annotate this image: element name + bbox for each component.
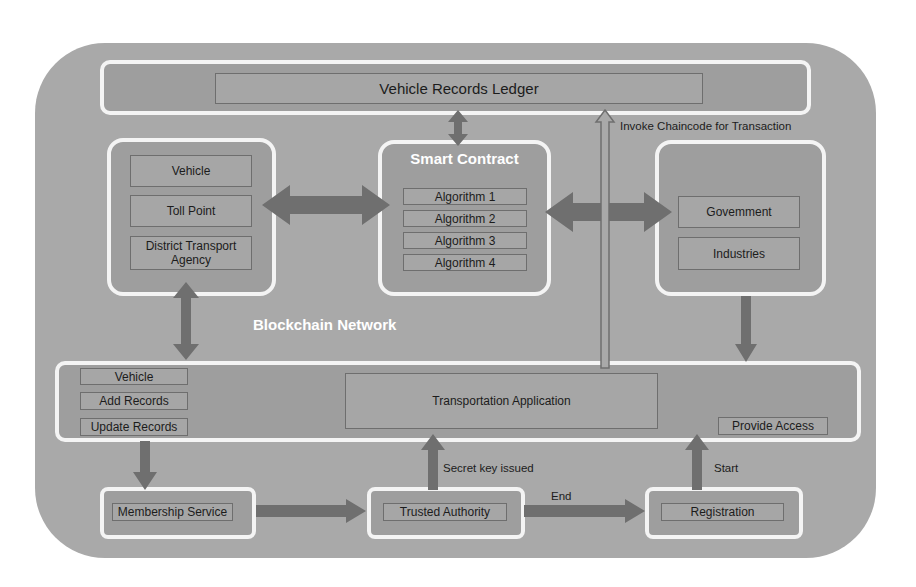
double-arrow-icon (173, 282, 199, 360)
down-arrow-icon (735, 296, 757, 362)
double-arrow-icon (262, 185, 390, 225)
up-arrow-icon (421, 434, 445, 490)
connector-arrows (0, 0, 916, 587)
right-arrow-icon (524, 499, 645, 523)
double-arrow-icon (448, 110, 468, 146)
down-arrow-icon (133, 441, 157, 490)
right-arrow-icon (256, 499, 366, 523)
invoke-chaincode-arrow-icon (596, 110, 614, 368)
up-arrow-icon (685, 434, 709, 490)
